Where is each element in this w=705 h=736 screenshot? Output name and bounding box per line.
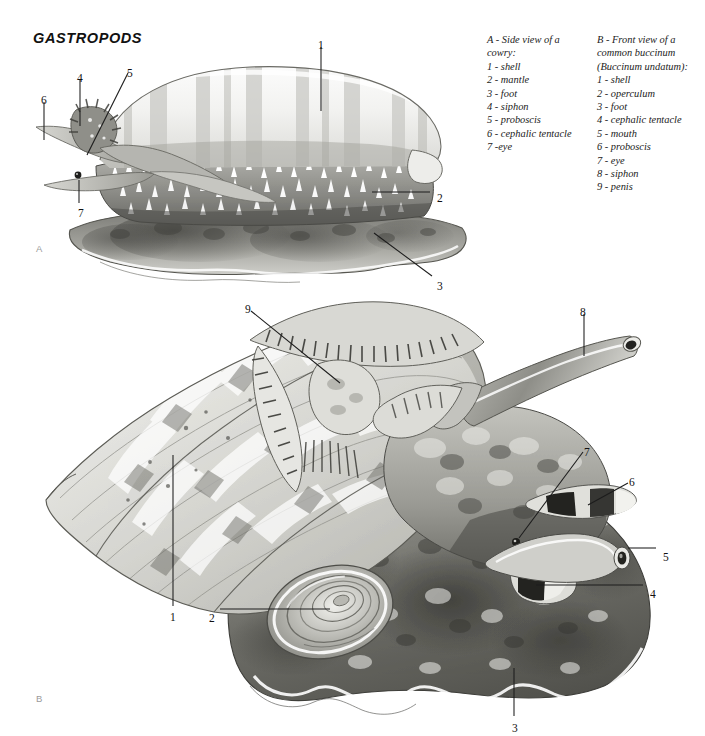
callout-b-2-operculum: 2 xyxy=(209,613,215,625)
legend-item: 4 - cephalic tentacle xyxy=(597,113,705,126)
legend-heading-line: cowry: xyxy=(487,46,587,59)
legend-item: 6 - proboscis xyxy=(597,140,705,153)
callout-b-4-cephalic-tentacle: 4 xyxy=(650,589,656,601)
callout-a-1-shell: 1 xyxy=(318,40,324,52)
callout-a-4-siphon: 4 xyxy=(77,73,83,85)
legend-item: 3 - foot xyxy=(597,100,705,113)
callout-b-6-proboscis: 6 xyxy=(629,477,635,489)
legend-item: 6 - cephalic tentacle xyxy=(487,127,587,140)
legend-item: 9 - penis xyxy=(597,180,705,193)
legend-heading-line: (Buccinum undatum): xyxy=(597,60,705,73)
callout-b-8-siphon: 8 xyxy=(580,307,586,319)
legend-item: 1 - shell xyxy=(487,60,587,73)
legend-item: 2 - mantle xyxy=(487,73,587,86)
callout-b-7-eye: 7 xyxy=(584,447,590,459)
legend-heading-line: B - Front view of a xyxy=(597,33,705,46)
legend-item: 4 - siphon xyxy=(487,100,587,113)
legend-item: 5 - proboscis xyxy=(487,113,587,126)
legend-figure-b: B - Front view of acommon buccinum(Bucci… xyxy=(597,33,705,194)
legend-item: 7 -eye xyxy=(487,140,587,153)
callout-a-7-eye: 7 xyxy=(78,208,84,220)
callout-b-9-penis: 9 xyxy=(245,304,251,316)
callout-a-2-mantle: 2 xyxy=(437,193,443,205)
legend-heading-line: A - Side view of a xyxy=(487,33,587,46)
callout-a-6-cephalic-tentacle: 6 xyxy=(41,95,47,107)
callout-b-3-foot: 3 xyxy=(512,723,518,735)
illustration-page: GASTROPODS xyxy=(0,0,705,736)
legend-item: 3 - foot xyxy=(487,87,587,100)
legend-item: 1 - shell xyxy=(597,73,705,86)
legend-heading-line: common buccinum xyxy=(597,46,705,59)
legend-item: 2 - operculum xyxy=(597,87,705,100)
panel-letter-b: B xyxy=(36,693,43,704)
legend-item: 8 - siphon xyxy=(597,167,705,180)
callout-a-3-foot: 3 xyxy=(437,281,443,293)
panel-letter-a: A xyxy=(36,243,43,254)
legend-item: 5 - mouth xyxy=(597,127,705,140)
legend-item: 7 - eye xyxy=(597,154,705,167)
callout-b-5-mouth: 5 xyxy=(663,552,669,564)
callout-a-5-proboscis: 5 xyxy=(127,68,133,80)
legend-figure-a: A - Side view of acowry:1 - shell2 - man… xyxy=(487,33,587,154)
callout-b-1-shell: 1 xyxy=(170,612,176,624)
